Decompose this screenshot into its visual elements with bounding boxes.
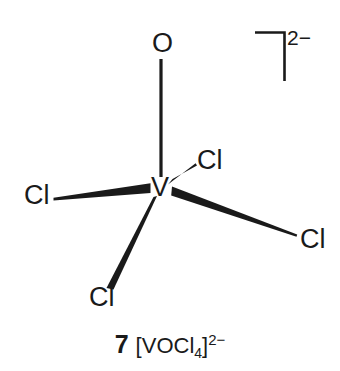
- chloro-ligand-right-label: Cl: [300, 226, 326, 253]
- caption-formula-base: [VOCl: [136, 333, 195, 358]
- oxo-ligand-label: O: [152, 30, 173, 57]
- structure-diagram-canvas: V O Cl Cl Cl Cl 2− 7[VOCl4]2−: [0, 0, 340, 371]
- central-atom-label: V: [151, 174, 169, 201]
- bond-v-cl-bottom: [107, 196, 158, 290]
- chloro-ligand-bottom-label: Cl: [89, 284, 115, 311]
- charge-bracket-corner: [255, 33, 285, 82]
- overall-charge-label: 2−: [287, 27, 311, 48]
- chloro-ligand-upper-right-label: Cl: [197, 147, 223, 174]
- caption-compound-number: 7: [115, 330, 129, 358]
- caption-formula-subscript: 4: [194, 345, 202, 361]
- bond-v-cl-right: [171, 187, 297, 237]
- figure-caption: 7[VOCl4]2−: [0, 330, 340, 361]
- caption-formula-charge: 2−: [208, 331, 225, 348]
- chloro-ligand-left-label: Cl: [24, 182, 50, 209]
- bond-v-cl-left: [54, 183, 151, 200]
- bond-v-cl-upper-right: [168, 163, 197, 184]
- caption-formula: [VOCl4]2−: [136, 333, 226, 358]
